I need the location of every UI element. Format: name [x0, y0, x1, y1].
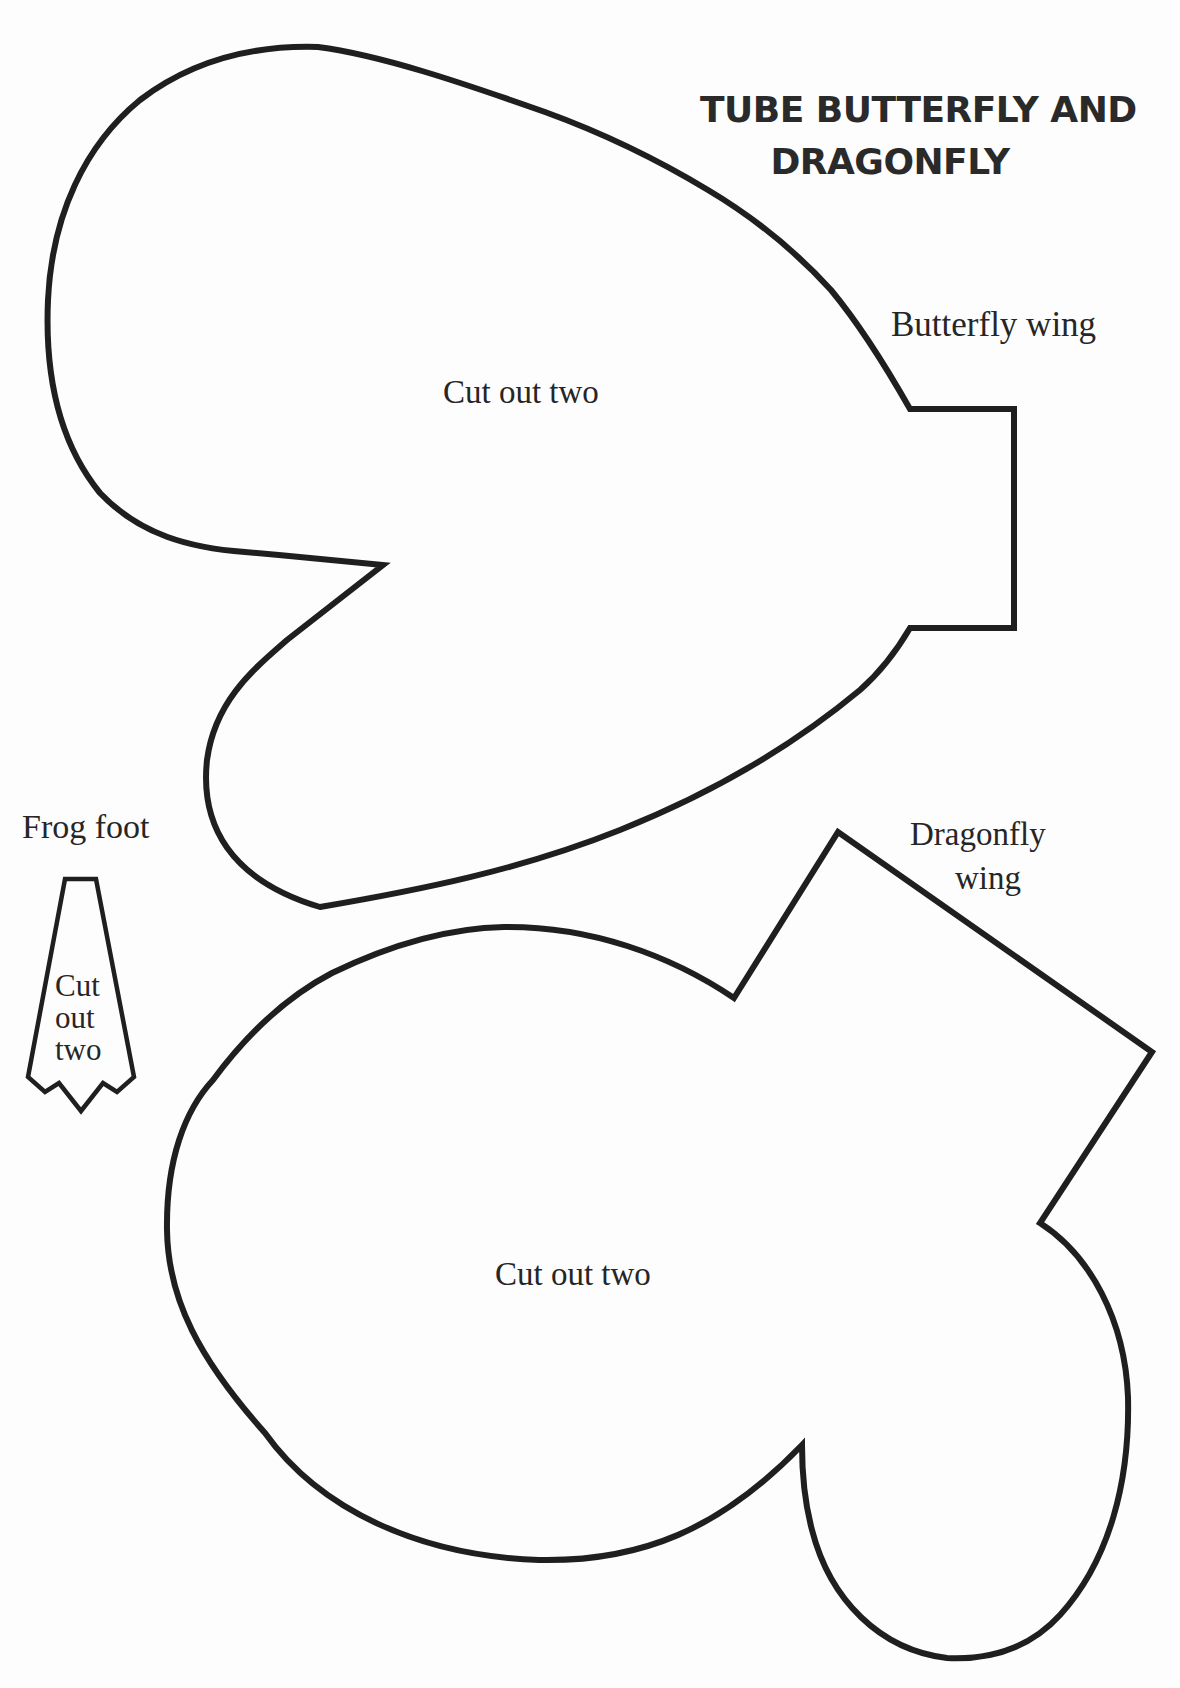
frog-foot-cut-line-3: two — [55, 1034, 102, 1065]
dragonfly-cut-instruction: Cut out two — [495, 1258, 651, 1291]
butterfly-wing-label: Butterfly wing — [891, 307, 1096, 342]
dragonfly-wing-outline — [167, 832, 1152, 1658]
page-title-line-2: DRAGONFLY — [700, 144, 1080, 180]
template-page: TUBE BUTTERFLY AND DRAGONFLY Butterfly w… — [0, 0, 1180, 1688]
dragonfly-wing-label-line-1: Dragonfly — [910, 818, 1046, 851]
page-title-line-1: TUBE BUTTERFLY AND — [700, 92, 1080, 128]
butterfly-cut-instruction: Cut out two — [443, 376, 599, 409]
frog-foot-cut-line-1: Cut — [55, 970, 100, 1001]
frog-foot-label: Frog foot — [22, 810, 150, 844]
frog-foot-cut-line-2: out — [55, 1002, 95, 1033]
dragonfly-wing-label-line-2: wing — [955, 862, 1021, 895]
